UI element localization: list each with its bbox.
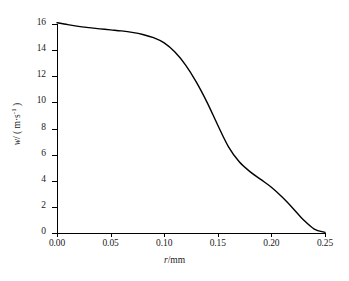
chart-figure: 0.000.050.100.150.200.250246810121416 r/… — [0, 0, 349, 281]
y-tick-label-6: 6 — [20, 148, 46, 158]
y-axis-label-separator: / — [12, 136, 22, 139]
x-axis-line — [57, 233, 325, 234]
x-tick-0.20 — [271, 233, 272, 237]
x-tick-label-0.00: 0.00 — [35, 238, 79, 248]
y-axis-label-exponent: -1 — [10, 108, 18, 114]
series-line-axial-velocity-profile — [57, 23, 325, 233]
x-tick-0.25 — [325, 233, 326, 237]
y-tick-label-8: 8 — [20, 122, 46, 132]
x-tick-0.00 — [57, 233, 58, 237]
y-tick-label-14: 14 — [20, 43, 46, 53]
y-tick-label-16: 16 — [20, 17, 46, 27]
x-tick-label-0.25: 0.25 — [303, 238, 347, 248]
y-axis-label-unit-open: ( — [12, 128, 22, 136]
y-tick-0 — [52, 233, 57, 234]
data-curve-svg — [57, 24, 325, 233]
y-tick-label-0: 0 — [20, 226, 46, 236]
x-tick-label-0.10: 0.10 — [142, 238, 186, 248]
x-axis-label-unit: mm — [170, 255, 185, 265]
y-axis-label-unit-close: ) — [12, 103, 22, 109]
x-tick-label-0.20: 0.20 — [249, 238, 293, 248]
x-tick-label-0.15: 0.15 — [196, 238, 240, 248]
y-axis-label-unit: m·s — [12, 114, 22, 128]
x-tick-0.10 — [164, 233, 165, 237]
x-tick-0.05 — [111, 233, 112, 237]
y-tick-label-2: 2 — [20, 200, 46, 210]
x-tick-label-0.05: 0.05 — [89, 238, 133, 248]
plot-area — [57, 24, 325, 233]
y-tick-label-4: 4 — [20, 174, 46, 184]
y-tick-label-10: 10 — [20, 95, 46, 105]
y-axis-label-variable: w — [12, 139, 22, 145]
x-axis-label: r/mm — [0, 255, 349, 265]
y-axis-label: w/ ( m·s-1 ) — [10, 64, 22, 184]
x-tick-0.15 — [218, 233, 219, 237]
y-tick-label-12: 12 — [20, 69, 46, 79]
